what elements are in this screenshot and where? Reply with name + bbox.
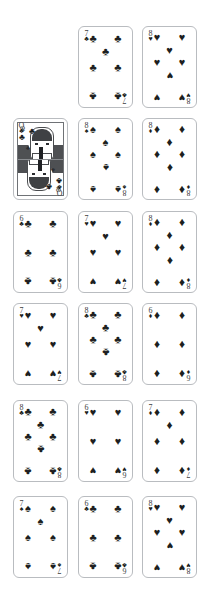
card-8-of-spades[interactable]: 8♠8♠♠♠♠♠♠♠♠♠ [78,118,133,200]
pip-field: ♦♦♦♦♦♦♦♦ [150,216,189,288]
club-icon: ♣ [89,90,96,101]
pip-field: ♦♦♦♦♦♦♦ [150,405,189,477]
heart-icon: ♥ [166,44,173,55]
card-7-of-hearts[interactable]: 7♥7♥♥♥♥♥♥♥♥ [78,211,133,293]
club-icon: ♣ [102,321,109,332]
heart-icon: ♥ [179,32,186,43]
card-index-tl: Q♣ [17,122,26,134]
club-icon: ♣ [89,532,96,543]
diamond-icon: ♦ [166,420,172,431]
heart-icon: ♥ [90,407,97,418]
diamond-icon: ♦ [179,148,185,159]
heart-icon: ♥ [115,464,122,475]
spade-icon: ♠ [50,560,56,571]
diamond-icon: ♦ [166,254,172,265]
heart-icon: ♥ [154,561,161,572]
diamond-icon: ♦ [154,436,160,447]
heart-icon: ♥ [90,464,97,475]
heart-icon: ♥ [179,56,186,67]
diamond-icon: ♦ [154,217,160,228]
heart-icon: ♥ [90,275,97,286]
club-icon: ♣ [114,90,121,101]
heart-icon: ♥ [154,56,161,67]
club-icon: ♣ [89,333,96,344]
club-icon: ♣ [46,182,52,191]
club-icon: ♣ [89,560,96,571]
heart-icon: ♥ [179,561,186,572]
diamond-icon: ♦ [154,148,160,159]
pip-field: ♣♣♣♣♣♣ [21,216,60,288]
heart-icon: ♥ [25,310,32,321]
card-8-of-clubs[interactable]: 8♣8♣♣♣♣♣♣♣♣♣ [78,303,133,385]
diamond-icon: ♦ [154,310,160,321]
card-7-of-spades[interactable]: 7♠7♠♠♠♠♠♠♠♠ [13,496,68,578]
card-8-of-hearts[interactable]: 8♥8♥♥♥♥♥♥♥♥♥ [142,496,197,578]
diamond-icon: ♦ [154,241,160,252]
heart-icon: ♥ [154,526,161,537]
pip-field: ♥♥♥♥♥♥♥ [86,216,125,288]
pip-field: ♣♣♣♣♣♣♣ [86,31,125,103]
diamond-icon: ♦ [154,124,160,135]
heart-icon: ♥ [115,275,122,286]
heart-icon: ♥ [166,69,173,80]
club-icon: ♣ [89,33,96,44]
card-7-of-hearts[interactable]: 7♥7♥♥♥♥♥♥♥♥ [13,303,68,385]
club-icon: ♣ [89,503,96,514]
heart-icon: ♥ [115,436,122,447]
pip-field: ♣♣♣♣♣♣♣♣ [86,308,125,380]
club-icon: ♣ [114,560,121,571]
heart-icon: ♥ [25,339,32,350]
diamond-icon: ♦ [154,276,160,287]
heart-icon: ♥ [50,367,57,378]
spade-icon: ♠ [90,124,96,135]
club-icon: ♣ [114,62,121,73]
club-icon: ♣ [24,465,31,476]
heart-icon: ♥ [115,407,122,418]
diamond-icon: ♦ [179,310,185,321]
diamond-icon: ♦ [179,339,185,350]
club-icon: ♣ [89,309,96,320]
diamond-icon: ♦ [179,183,185,194]
spade-icon: ♠ [90,148,96,159]
spade-icon: ♠ [38,516,44,527]
card-6-of-hearts[interactable]: 6♥6♥♥♥♥♥♥♥ [78,400,133,482]
card-7-of-clubs[interactable]: 7♣7♣♣♣♣♣♣♣♣ [78,26,133,108]
diamond-icon: ♦ [154,339,160,350]
diamond-icon: ♦ [179,464,185,475]
card-q-of-clubs[interactable]: Q♣♣♣Q♣♣♣Q♣Q♣ [13,118,68,200]
heart-icon: ♥ [90,247,97,258]
club-icon: ♣ [49,275,56,286]
card-8-of-hearts[interactable]: 8♥8♥♥♥♥♥♥♥♥♥ [142,26,197,108]
club-icon: ♣ [49,465,56,476]
heart-icon: ♥ [25,367,32,378]
heart-icon: ♥ [154,91,161,102]
card-7-of-diamonds[interactable]: 7♦7♦♦♦♦♦♦♦♦ [142,400,197,482]
spade-icon: ♠ [115,183,121,194]
card-8-of-diamonds[interactable]: 8♦8♦♦♦♦♦♦♦♦♦ [142,211,197,293]
club-icon: ♣ [114,532,121,543]
heart-icon: ♥ [50,339,57,350]
heart-icon: ♥ [166,539,173,550]
card-6-of-clubs[interactable]: 6♣6♣♣♣♣♣♣♣ [13,211,68,293]
card-8-of-diamonds[interactable]: 8♦8♦♦♦♦♦♦♦♦♦ [142,118,197,200]
diamond-icon: ♦ [179,241,185,252]
spade-icon: ♠ [103,136,109,147]
club-icon: ♣ [102,46,109,57]
club-icon: ♣ [37,443,44,454]
club-icon: ♣ [49,247,56,258]
club-icon: ♣ [114,503,121,514]
card-8-of-clubs[interactable]: 8♣8♣♣♣♣♣♣♣♣♣ [13,400,68,482]
club-icon: ♣ [24,247,31,258]
court-sash [39,147,43,159]
card-6-of-diamonds[interactable]: 6♦6♦♦♦♦♦♦♦ [142,303,197,385]
club-icon: ♣ [19,129,24,134]
diamond-icon: ♦ [154,464,160,475]
club-icon: ♣ [24,275,31,286]
heart-icon: ♥ [179,526,186,537]
court-eyes [35,143,49,145]
club-icon: ♣ [37,418,44,429]
card-6-of-clubs[interactable]: 6♣6♣♣♣♣♣♣♣ [78,496,133,578]
club-icon: ♣ [89,62,96,73]
spade-icon: ♠ [50,532,56,543]
diamond-icon: ♦ [179,217,185,228]
